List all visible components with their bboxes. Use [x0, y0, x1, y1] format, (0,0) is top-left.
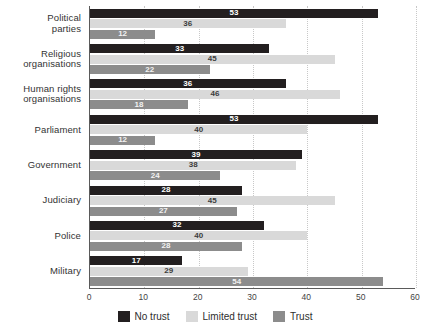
bar-value-label: 28	[162, 242, 171, 250]
bar-row: 32	[90, 221, 416, 230]
category-label-judiciary: Judiciary	[0, 195, 81, 206]
category-label-line: parties	[0, 24, 81, 35]
legend-swatch-icon	[118, 311, 130, 322]
bar-row: 38	[90, 161, 416, 170]
bar-value-label: 29	[164, 267, 173, 275]
legend-item-limited-trust[interactable]: Limited trust	[186, 311, 257, 322]
bar-row: 27	[90, 207, 416, 216]
x-tick-label: 30	[247, 292, 256, 302]
bar-value-label: 45	[208, 55, 217, 63]
bar-value-label: 36	[183, 80, 192, 88]
plot-area: 5336123345223646185340123938242845273240…	[89, 6, 415, 289]
category-label-parliament: Parliament	[0, 125, 81, 136]
bar-row: 33	[90, 44, 416, 53]
bar-row: 36	[90, 79, 416, 88]
bar-row: 45	[90, 196, 416, 205]
bar-row: 18	[90, 100, 416, 109]
bar-value-label: 32	[172, 221, 181, 229]
category-label-line: organisations	[0, 59, 81, 70]
legend-item-trust[interactable]: Trust	[273, 311, 312, 322]
bar-value-label: 40	[194, 126, 203, 134]
plot-inner: 5336123345223646185340123938242845273240…	[90, 6, 415, 288]
grouped-bar-chart: PoliticalpartiesReligiousorganisationsHu…	[0, 0, 430, 329]
category-axis: PoliticalpartiesReligiousorganisationsHu…	[0, 6, 85, 289]
bar-group: 393824	[90, 148, 415, 183]
x-tick-label: 40	[302, 292, 311, 302]
bar-value-label: 12	[118, 136, 127, 144]
bar-row: 39	[90, 150, 416, 159]
bar-value-label: 54	[232, 278, 241, 286]
legend-label: Trust	[290, 311, 312, 322]
bar-value-label: 40	[194, 232, 203, 240]
bar-value-label: 36	[183, 20, 192, 28]
category-label-line: Judiciary	[0, 195, 81, 206]
legend-swatch-icon	[273, 311, 285, 322]
bar-row: 40	[90, 231, 416, 240]
bar-value-label: 38	[189, 161, 198, 169]
bar-group: 284527	[90, 183, 415, 218]
legend-item-no-trust[interactable]: No trust	[118, 311, 170, 322]
gridline	[416, 6, 418, 288]
x-tick-label: 50	[356, 292, 365, 302]
category-label-line: Police	[0, 231, 81, 242]
category-label-line: organisations	[0, 94, 81, 105]
category-label-line: Parliament	[0, 125, 81, 136]
bar-value-label: 18	[134, 101, 143, 109]
bar-row: 12	[90, 30, 416, 39]
x-tick-label: 10	[139, 292, 148, 302]
bar-group: 324028	[90, 218, 415, 253]
legend-label: Limited trust	[203, 311, 257, 322]
bar-value-label: 33	[175, 45, 184, 53]
bar-row: 24	[90, 171, 416, 180]
bar-row: 17	[90, 256, 416, 265]
bar-row: 54	[90, 277, 416, 286]
legend-swatch-icon	[186, 311, 198, 322]
bar-row: 53	[90, 115, 416, 124]
bar-value-label: 28	[162, 186, 171, 194]
bar-row: 36	[90, 19, 416, 28]
bar-group: 533612	[90, 6, 415, 41]
chart-legend: No trustLimited trustTrust	[0, 307, 430, 325]
x-tick-label: 0	[87, 292, 92, 302]
category-label-religious-organisations: Religiousorganisations	[0, 49, 81, 70]
bar-row: 46	[90, 90, 416, 99]
category-label-human-rights-organisations: Human rightsorganisations	[0, 84, 81, 105]
x-tick-label: 60	[410, 292, 419, 302]
bar-value-label: 53	[230, 9, 239, 17]
category-label-line: Government	[0, 160, 81, 171]
bar-value-label: 12	[118, 30, 127, 38]
bar-value-label: 17	[132, 257, 141, 265]
legend-label: No trust	[135, 311, 170, 322]
bar-value-label: 45	[208, 197, 217, 205]
bar-group: 172954	[90, 254, 415, 289]
bar-row: 45	[90, 55, 416, 64]
bar-row: 22	[90, 65, 416, 74]
bar-group: 334522	[90, 41, 415, 76]
category-label-police: Police	[0, 231, 81, 242]
bar-row: 12	[90, 136, 416, 145]
bar-value-label: 27	[159, 207, 168, 215]
bar-value-label: 24	[151, 172, 160, 180]
bar-group: 364618	[90, 77, 415, 112]
category-label-military: Military	[0, 266, 81, 277]
bar-row: 29	[90, 267, 416, 276]
bar-group: 534012	[90, 112, 415, 147]
category-label-government: Government	[0, 160, 81, 171]
x-tick-label: 20	[193, 292, 202, 302]
category-label-political-parties: Politicalparties	[0, 13, 81, 34]
x-axis: 0102030405060	[89, 289, 415, 305]
bar-value-label: 53	[230, 115, 239, 123]
category-label-line: Military	[0, 266, 81, 277]
bar-value-label: 22	[145, 66, 154, 74]
bar-row: 53	[90, 9, 416, 18]
bar-row: 28	[90, 186, 416, 195]
bar-row: 28	[90, 242, 416, 251]
bar-row: 40	[90, 125, 416, 134]
bar-value-label: 39	[191, 151, 200, 159]
bar-value-label: 46	[211, 90, 220, 98]
